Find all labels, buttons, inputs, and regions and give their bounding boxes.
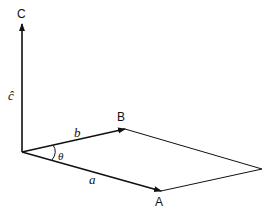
parallelogram-side-bd xyxy=(125,129,262,169)
label-vector-c: ĉ xyxy=(8,88,14,103)
label-point-b: B xyxy=(117,110,125,124)
label-vector-b: b xyxy=(74,125,81,140)
angle-theta-arc xyxy=(52,145,55,160)
label-vector-a: a xyxy=(89,172,96,187)
label-angle-theta: θ xyxy=(58,150,64,162)
label-point-a: A xyxy=(155,195,163,209)
vector-diagram: C B A ĉ b a θ xyxy=(0,0,272,213)
label-point-c: C xyxy=(17,7,26,21)
parallelogram-side-ad xyxy=(161,169,262,191)
